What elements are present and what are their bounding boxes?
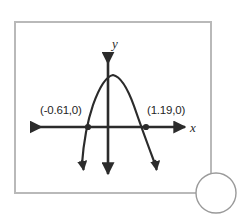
y-axis-label: y xyxy=(110,36,118,51)
x-intercept-right-label: (1.19,0) xyxy=(147,104,185,116)
figure-root: y x (-0.61,0) (1.19,0) xyxy=(0,0,238,217)
parabola xyxy=(82,75,155,164)
x-axis-label: x xyxy=(189,120,196,135)
x-intercept-right-dot xyxy=(143,124,149,130)
parabola-left-arrow xyxy=(82,160,84,170)
graph-figure: y x (-0.61,0) (1.19,0) xyxy=(0,0,238,217)
x-intercept-left-label: (-0.61,0) xyxy=(40,104,82,116)
answer-bubble[interactable] xyxy=(196,173,236,213)
parabola-right-arrow xyxy=(155,160,157,170)
x-intercept-left-dot xyxy=(85,124,91,130)
